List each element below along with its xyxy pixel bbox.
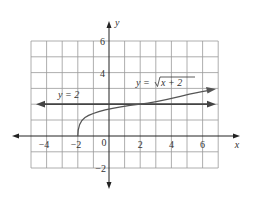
line-right-arrow-icon <box>207 101 216 108</box>
y-tick-label: 4 <box>100 68 105 79</box>
y-tick-label: 6 <box>100 36 105 47</box>
line-left-arrow-icon <box>36 101 45 108</box>
x-tick-label: −4 <box>39 139 50 150</box>
x-tick-label: 2 <box>138 139 143 150</box>
x-tick-label: 4 <box>169 139 174 150</box>
curve-annotation: y = x + 2 <box>135 77 195 88</box>
curve-sqrt <box>78 87 216 136</box>
y-axis-label: y <box>114 17 120 28</box>
x-tick-label: 0 <box>102 137 107 148</box>
y-axis-down-arrow-icon <box>107 182 112 189</box>
x-axis-right-arrow-icon <box>233 134 240 139</box>
x-axis-left-arrow-icon <box>12 134 19 139</box>
curve-annotation-y: y = <box>135 77 150 88</box>
y-axis-up-arrow-icon <box>107 21 112 28</box>
curve-annotation-arg: x + 2 <box>160 77 182 88</box>
y-tick-label: −2 <box>95 163 106 174</box>
line-annotation: y = 2 <box>57 89 79 100</box>
x-tick-label: 6 <box>200 139 205 150</box>
x-tick-label: −2 <box>71 139 82 150</box>
graph: −4 −2 0 2 4 6 x 6 4 −2 y y = 2 y = x + 2 <box>0 0 253 197</box>
x-axis-label: x <box>234 139 240 150</box>
curve-arrow-icon <box>206 87 216 94</box>
